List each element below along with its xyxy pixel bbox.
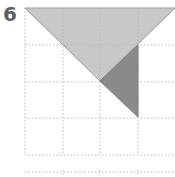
grid-diagram (0, 0, 175, 177)
